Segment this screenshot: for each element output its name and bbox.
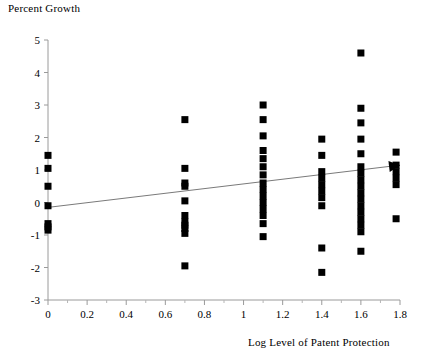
data-point: [357, 50, 364, 57]
x-tick-label: 0.2: [80, 308, 94, 320]
data-point: [260, 186, 267, 193]
data-point: [357, 183, 364, 190]
data-point: [45, 202, 52, 209]
data-point: [260, 171, 267, 178]
data-point: [260, 220, 267, 227]
x-tick-label: 1.2: [276, 308, 290, 320]
data-point: [318, 269, 325, 276]
data-point: [45, 165, 52, 172]
x-tick-label: 0.8: [198, 308, 212, 320]
data-point: [260, 199, 267, 206]
x-axis-title: Log Level of Patent Protection: [248, 336, 390, 348]
data-point: [318, 181, 325, 188]
data-point: [181, 212, 188, 219]
x-tick-label: 1: [241, 308, 247, 320]
axes: [48, 40, 400, 300]
data-point: [260, 102, 267, 109]
y-tick-label: 5: [35, 34, 41, 46]
data-point: [260, 116, 267, 123]
data-point: [393, 168, 400, 175]
y-tick-label: -2: [31, 262, 40, 274]
y-tick-label: -3: [31, 294, 41, 306]
data-point: [260, 212, 267, 219]
data-point: [357, 209, 364, 216]
data-point: [318, 136, 325, 143]
data-point: [393, 181, 400, 188]
data-point: [260, 132, 267, 139]
data-point: [45, 183, 52, 190]
data-point: [318, 202, 325, 209]
trendline-segment: [48, 165, 400, 207]
y-tick-label: 2: [35, 132, 41, 144]
x-axis-tick-labels: 00.20.40.60.811.21.41.61.8: [45, 308, 407, 320]
data-point: [357, 163, 364, 170]
data-point: [260, 193, 267, 200]
data-point: [357, 176, 364, 183]
x-axis-ticks: [48, 300, 400, 305]
data-point: [181, 230, 188, 237]
data-point: [357, 196, 364, 203]
x-tick-label: 0: [45, 308, 51, 320]
data-point: [318, 175, 325, 182]
data-point: [357, 150, 364, 157]
data-point: [357, 228, 364, 235]
data-point: [357, 215, 364, 222]
data-point: [45, 227, 52, 234]
y-tick-label: 0: [35, 197, 41, 209]
trendline: [48, 161, 400, 207]
data-point: [393, 149, 400, 156]
x-tick-label: 1.6: [354, 308, 368, 320]
y-tick-label: 1: [35, 164, 41, 176]
y-axis-tick-labels: -3-2-1012345: [31, 34, 41, 306]
data-point: [260, 206, 267, 213]
data-point: [357, 189, 364, 196]
data-point: [260, 233, 267, 240]
data-point: [260, 163, 267, 170]
data-point: [393, 215, 400, 222]
plot-area: -3-2-1012345 00.20.40.60.811.21.41.61.8: [0, 0, 427, 361]
y-tick-label: 4: [35, 67, 41, 79]
data-point: [318, 188, 325, 195]
data-point: [318, 168, 325, 175]
data-point: [393, 162, 400, 169]
data-points: [45, 50, 400, 276]
x-tick-label: 0.4: [119, 308, 133, 320]
data-point: [357, 119, 364, 126]
data-point: [181, 116, 188, 123]
x-tick-label: 1.4: [315, 308, 329, 320]
data-point: [260, 155, 267, 162]
data-point: [357, 136, 364, 143]
data-point: [357, 248, 364, 255]
data-point: [357, 222, 364, 229]
y-tick-label: 3: [35, 99, 41, 111]
data-point: [260, 147, 267, 154]
y-tick-label: -1: [31, 229, 40, 241]
data-point: [45, 152, 52, 159]
data-point: [181, 197, 188, 204]
data-point: [393, 175, 400, 182]
data-point: [357, 105, 364, 112]
data-point: [357, 202, 364, 209]
data-point: [318, 194, 325, 201]
data-point: [357, 170, 364, 177]
data-point: [181, 262, 188, 269]
x-tick-label: 0.6: [158, 308, 172, 320]
data-point: [181, 165, 188, 172]
data-point: [318, 245, 325, 252]
x-tick-label: 1.8: [393, 308, 407, 320]
scatter-chart: Percent Growth -3-2-1012345 00.20.40.60.…: [0, 0, 427, 361]
data-point: [181, 183, 188, 190]
data-point: [318, 152, 325, 159]
data-point: [260, 180, 267, 187]
